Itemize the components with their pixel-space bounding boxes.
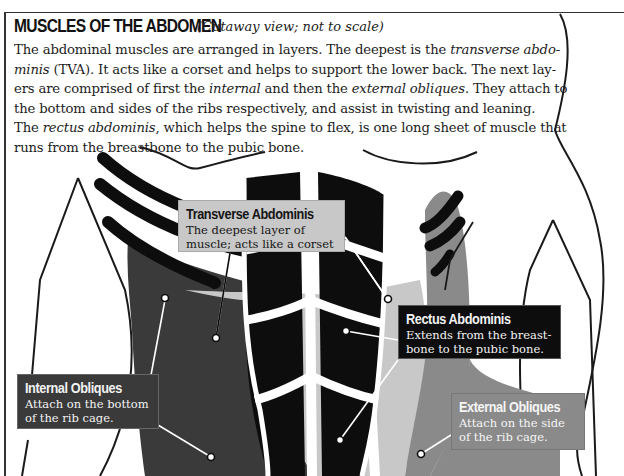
label-desc: of the rib cage. [25,411,151,425]
intro-paragraph: The abdominal muscles are arranged in la… [14,40,598,158]
label-desc: Attach on the bottom [25,397,151,411]
label-transverse-abdominis: Transverse Abdominis The deepest layer o… [178,200,345,252]
label-desc: Attach on the side [459,416,577,430]
label-internal-obliques: Internal Obliques Attach on the bottom o… [17,374,159,429]
label-title: Internal Obliques [25,379,122,397]
label-desc: of the rib cage. [459,430,577,444]
label-title: Rectus Abdominis [406,310,511,328]
arm-outline-left [32,178,78,375]
label-external-obliques: External Obliques Attach on the side of … [451,393,585,450]
label-desc: Extends from the breast- [406,328,553,342]
label-desc: bone to the pubic bone. [406,342,553,356]
label-title: Transverse Abdominis [186,205,314,223]
label-title: External Obliques [459,398,560,416]
label-desc: muscle; acts like a corset [186,237,337,251]
label-desc: The deepest layer of [186,223,337,237]
label-rectus-abdominis: Rectus Abdominis Extends from the breast… [398,305,561,359]
